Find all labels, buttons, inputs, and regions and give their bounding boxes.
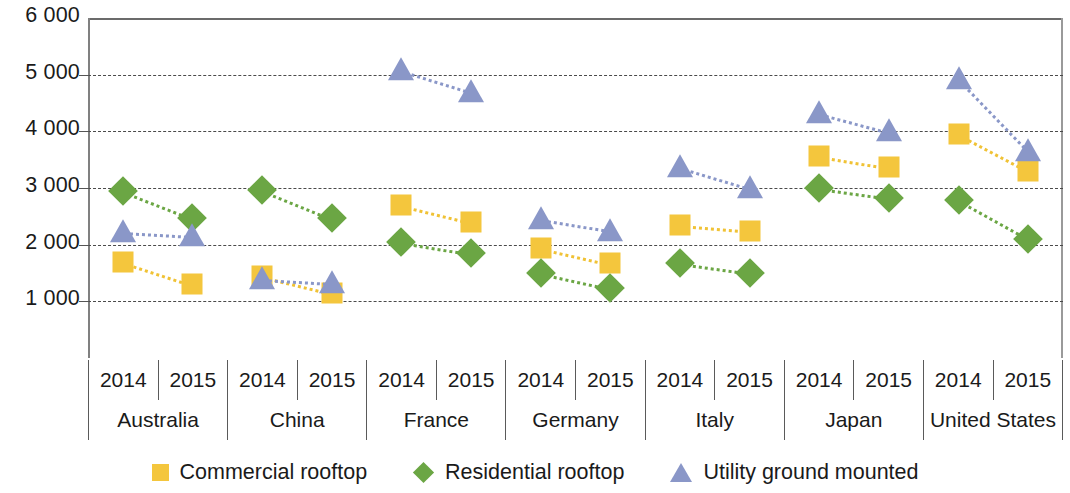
- data-point-marker: [110, 220, 136, 243]
- chart-legend: Commercial rooftopResidential rooftopUti…: [0, 452, 1070, 493]
- x-axis-country-label: Australia: [88, 400, 227, 440]
- data-point-marker: [1018, 161, 1039, 182]
- gridline: [88, 301, 1063, 302]
- data-point-marker: [669, 214, 690, 235]
- data-point-marker: [388, 57, 414, 80]
- data-point-marker: [876, 119, 902, 142]
- x-axis-year-label: 2015: [714, 360, 784, 400]
- legend-label: Commercial rooftop: [180, 460, 368, 485]
- y-axis-tick-label: 4 000: [25, 116, 80, 141]
- y-axis-tick: [79, 301, 89, 302]
- data-point-marker: [806, 100, 832, 123]
- data-point-marker: [1013, 224, 1043, 254]
- data-point-marker: [739, 220, 760, 241]
- x-axis-year-label: 2015: [436, 360, 506, 400]
- data-point-marker: [247, 175, 277, 205]
- chart-container: 6 0005 0004 0003 0002 0001 000 201420152…: [0, 0, 1070, 493]
- y-axis-labels: 6 0005 0004 0003 0002 0001 000: [0, 0, 80, 340]
- data-point-marker: [809, 145, 830, 166]
- data-point-marker: [948, 124, 969, 145]
- x-axis-year-label: 2015: [297, 360, 367, 400]
- data-point-marker: [530, 237, 551, 258]
- y-axis-tick: [79, 131, 89, 132]
- gridline: [88, 245, 1063, 246]
- y-axis-tick-label: 6 000: [25, 3, 80, 28]
- data-point-marker: [458, 79, 484, 102]
- plot-area: [88, 18, 1063, 358]
- data-point-marker: [944, 186, 974, 216]
- data-point-marker: [735, 258, 765, 288]
- gridline: [88, 131, 1063, 132]
- x-axis-year-label: 2015: [853, 360, 923, 400]
- x-axis-year-label: 2015: [158, 360, 228, 400]
- data-point-marker: [108, 176, 138, 206]
- y-axis-tick-label: 5 000: [25, 60, 80, 85]
- data-point-marker: [595, 273, 625, 303]
- data-point-marker: [461, 212, 482, 233]
- triangle-marker-icon: [670, 463, 692, 482]
- x-axis-year-label: 2014: [784, 360, 854, 400]
- legend-item[interactable]: Commercial rooftop: [152, 460, 368, 485]
- legend-item[interactable]: Residential rooftop: [413, 460, 624, 485]
- x-axis-country-label: Germany: [505, 400, 644, 440]
- y-axis-tick-label: 3 000: [25, 173, 80, 198]
- x-axis-country-row: AustraliaChinaFranceGermanyItalyJapanUni…: [88, 400, 1063, 440]
- x-axis-country-label: France: [366, 400, 505, 440]
- data-point-marker: [665, 249, 695, 279]
- data-point-marker: [179, 224, 205, 247]
- diamond-marker-icon: [413, 462, 434, 483]
- legend-label: Residential rooftop: [445, 460, 624, 485]
- x-axis-year-label: 2015: [575, 360, 645, 400]
- data-point-marker: [391, 195, 412, 216]
- data-point-marker: [946, 67, 972, 90]
- x-axis-year-label: 2015: [993, 360, 1064, 400]
- x-axis-year-label: 2014: [505, 360, 575, 400]
- data-point-marker: [1015, 139, 1041, 162]
- data-point-marker: [387, 227, 417, 257]
- data-point-marker: [528, 207, 554, 230]
- data-point-marker: [182, 274, 203, 295]
- legend-label: Utility ground mounted: [703, 460, 918, 485]
- x-axis-year-row: 2014201520142015201420152014201520142015…: [88, 360, 1063, 400]
- gridline: [88, 188, 1063, 189]
- y-axis-tick: [79, 75, 89, 76]
- data-point-marker: [319, 270, 345, 293]
- x-axis-country-label: Japan: [784, 400, 923, 440]
- x-axis-country-label: Italy: [645, 400, 784, 440]
- data-point-marker: [737, 175, 763, 198]
- data-point-marker: [456, 238, 486, 268]
- square-marker-icon: [152, 464, 169, 481]
- data-point-marker: [249, 266, 275, 289]
- data-point-marker: [600, 253, 621, 274]
- data-point-marker: [526, 258, 556, 288]
- x-axis: 2014201520142015201420152014201520142015…: [88, 360, 1063, 440]
- x-axis-year-label: 2014: [366, 360, 436, 400]
- data-point-marker: [317, 203, 347, 233]
- x-axis-year-label: 2014: [88, 360, 158, 400]
- y-axis-tick-label: 1 000: [25, 286, 80, 311]
- x-axis-country-label: United States: [923, 400, 1063, 440]
- x-axis-year-label: 2014: [645, 360, 715, 400]
- x-axis-year-label: 2014: [923, 360, 993, 400]
- legend-item[interactable]: Utility ground mounted: [670, 460, 918, 485]
- data-point-marker: [804, 173, 834, 203]
- data-point-marker: [112, 251, 133, 272]
- gridline: [88, 75, 1063, 76]
- y-axis-tick: [79, 245, 89, 246]
- x-axis-country-label: China: [227, 400, 366, 440]
- y-axis-tick: [79, 188, 89, 189]
- y-axis-tick-label: 2 000: [25, 230, 80, 255]
- data-point-marker: [667, 154, 693, 177]
- x-axis-year-label: 2014: [227, 360, 297, 400]
- data-point-marker: [878, 157, 899, 178]
- data-point-marker: [597, 218, 623, 241]
